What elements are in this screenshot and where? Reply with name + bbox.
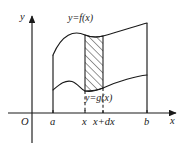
- shaded-strip: [85, 35, 103, 91]
- tick-label-b: b: [144, 117, 149, 128]
- x-axis-label: x: [170, 116, 175, 127]
- figure-container: y x O a x x+dx b y=f(x) y=g(x): [0, 0, 188, 151]
- y-axis-label: y: [20, 12, 25, 23]
- tick-label-a: a: [50, 117, 55, 128]
- curve-label-gx: y=g(x): [85, 93, 112, 103]
- area-between-curves-diagram: [0, 0, 188, 151]
- tick-label-x: x: [82, 117, 87, 128]
- origin-label: O: [21, 117, 29, 128]
- tick-label-x-plus-dx: x+dx: [93, 117, 115, 128]
- curve-label-fx: y=f(x): [68, 13, 93, 23]
